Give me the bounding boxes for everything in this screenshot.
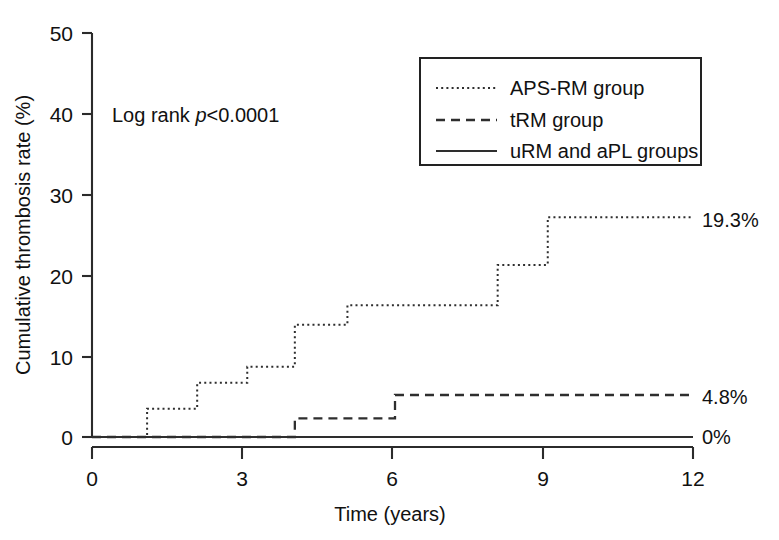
y-tick-label-30: 30 — [50, 184, 73, 207]
y-tick-label-50: 50 — [50, 22, 73, 45]
legend-label-aps-rm: APS-RM group — [510, 77, 645, 99]
figure-container: 50 40 30 20 10 0 Cumulative thrombosis r… — [0, 0, 779, 540]
y-tick-label-40: 40 — [50, 103, 73, 126]
log-rank-suffix: <0.0001 — [207, 104, 280, 126]
log-rank-annotation: Log rank p<0.0001 — [112, 104, 279, 126]
y-axis-title: Cumulative thrombosis rate (%) — [12, 95, 34, 375]
end-label-trm: 4.8% — [702, 386, 748, 408]
x-tick-label-6: 6 — [386, 467, 398, 490]
end-label-aps-rm: 19.3% — [702, 209, 759, 231]
end-label-urm-apl: 0% — [702, 426, 731, 448]
legend-label-urm-apl: uRM and aPL groups — [510, 140, 698, 162]
y-tick-label-20: 20 — [50, 265, 73, 288]
y-tick-label-0: 0 — [61, 426, 73, 449]
x-tick-label-12: 12 — [681, 467, 704, 490]
log-rank-italic-p: p — [194, 104, 206, 126]
y-tick-label-10: 10 — [50, 346, 73, 369]
legend: APS-RM group tRM group uRM and aPL group… — [420, 58, 701, 165]
x-tick-label-9: 9 — [537, 467, 549, 490]
legend-label-trm: tRM group — [510, 109, 603, 131]
x-tick-label-0: 0 — [86, 467, 98, 490]
log-rank-prefix: Log rank — [112, 104, 195, 126]
x-axis-title: Time (years) — [334, 503, 445, 525]
x-tick-label-3: 3 — [236, 467, 248, 490]
survival-curve-chart: 50 40 30 20 10 0 Cumulative thrombosis r… — [0, 0, 779, 540]
